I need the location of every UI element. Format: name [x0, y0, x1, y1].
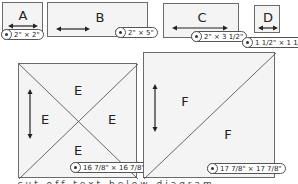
grain-dot-icon [1, 29, 12, 40]
piece-d: D [254, 5, 280, 33]
piece-c-size: 2" × 3 1/2" [204, 33, 243, 41]
cutoff-caption: ...cut off text below diagram... [0, 177, 298, 184]
piece-e-size: 16 7/8" × 16 7/8" [83, 164, 145, 172]
piece-a-size: 2" × 2" [14, 31, 40, 39]
piece-e-label-right: E [108, 113, 116, 126]
piece-d-size-tag: 1 1/2" × 1 1/2" [242, 37, 298, 48]
piece-b-size-tag: 2" × 5" [115, 27, 158, 38]
grain-dot-icon [242, 37, 253, 48]
piece-f: F F [143, 52, 275, 178]
grain-arrow-icon [255, 6, 281, 34]
grain-dot-icon [207, 163, 218, 174]
piece-f-label-lower: F [224, 128, 231, 141]
diagonal-cut-line [144, 53, 276, 179]
grain-dot-icon [191, 31, 202, 42]
piece-a-size-tag: 2" × 2" [1, 29, 44, 40]
piece-e-label-left: E [41, 113, 49, 126]
piece-f-label-upper: F [181, 95, 188, 108]
piece-d-size: 1 1/2" × 1 1/2" [255, 39, 298, 47]
piece-e-label-bottom: E [74, 144, 82, 157]
piece-b-size: 2" × 5" [128, 29, 154, 37]
grain-dot-icon [115, 27, 126, 38]
piece-f-size-tag: 17 7/8" × 17 7/8" [207, 163, 286, 174]
piece-e-label-top: E [74, 84, 82, 97]
piece-f-size: 17 7/8" × 17 7/8" [220, 165, 282, 173]
piece-e-size-tag: 16 7/8" × 16 7/8" [70, 162, 149, 173]
grain-dot-icon [70, 162, 81, 173]
piece-e: E E E E [18, 63, 137, 178]
piece-c-size-tag: 2" × 3 1/2" [191, 31, 247, 42]
